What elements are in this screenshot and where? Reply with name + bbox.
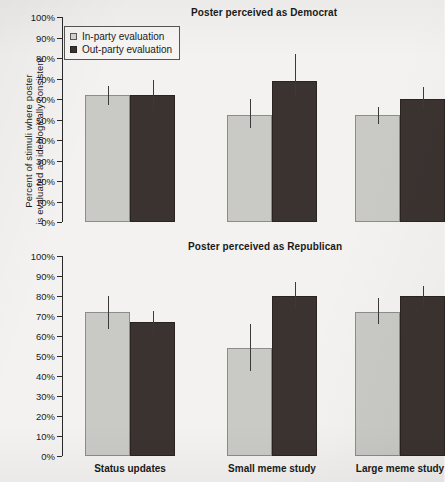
- y-axis-tick: [57, 202, 62, 203]
- y-axis-tick: [57, 276, 62, 277]
- y-axis-tick: [57, 316, 62, 317]
- y-axis-tick: [57, 336, 62, 337]
- error-bar: [108, 86, 109, 105]
- legend-item-out-party: Out-party evaluation: [70, 43, 172, 56]
- y-axis-tick-label: 10%: [36, 431, 55, 442]
- y-axis-tick-label: 90%: [36, 32, 55, 43]
- bar-in-party: [355, 115, 400, 222]
- y-axis-tick-label: 80%: [36, 291, 55, 302]
- y-axis-spine: [62, 17, 63, 222]
- y-axis-tick: [57, 376, 62, 377]
- error-bar: [108, 296, 109, 329]
- y-axis-spine: [62, 256, 63, 456]
- error-bar: [250, 324, 251, 371]
- y-axis-tick-label: 0%: [41, 217, 55, 228]
- bar-out-party: [130, 95, 175, 222]
- y-axis-tick-label: 40%: [36, 135, 55, 146]
- chart-panel-democrat: Poster perceived as Democrat 0%10%20%30%…: [0, 0, 444, 240]
- y-axis-tick: [57, 222, 62, 223]
- y-axis-tick-label: 20%: [36, 411, 55, 422]
- x-axis-category-label: Small meme study: [228, 463, 316, 474]
- bar-out-party: [272, 81, 317, 222]
- bar-in-party: [227, 115, 272, 222]
- y-axis-tick-label: 80%: [36, 53, 55, 64]
- y-axis-tick-label: 20%: [36, 176, 55, 187]
- y-axis-tick-label: 30%: [36, 155, 55, 166]
- y-axis-tick-label: 60%: [36, 331, 55, 342]
- y-axis-tick: [57, 256, 62, 257]
- y-axis-tick: [57, 140, 62, 141]
- bar-in-party: [355, 312, 400, 456]
- chart-legend: In-party evaluation Out-party evaluation: [64, 26, 180, 60]
- bar-in-party: [85, 95, 130, 222]
- y-axis-tick-label: 50%: [36, 114, 55, 125]
- x-axis-category-label: Large meme study: [356, 463, 444, 474]
- error-bar: [378, 298, 379, 324]
- legend-item-in-party: In-party evaluation: [70, 30, 172, 43]
- y-axis-tick: [57, 99, 62, 100]
- bar-out-party: [272, 296, 317, 456]
- chart-panel-republican: Poster perceived as Republican 0%10%20%3…: [0, 240, 444, 482]
- error-bar: [153, 311, 154, 334]
- y-axis-tick-label: 100%: [31, 12, 55, 23]
- y-axis-tick-label: 70%: [36, 73, 55, 84]
- y-axis-tick: [57, 436, 62, 437]
- error-bar: [295, 282, 296, 308]
- y-axis-tick: [57, 396, 62, 397]
- legend-label-out-party: Out-party evaluation: [82, 44, 172, 55]
- plot-area-republican: 0%10%20%30%40%50%60%70%80%90%100%Status …: [62, 256, 440, 456]
- y-axis-tick-label: 0%: [41, 451, 55, 462]
- x-axis-category-label: Status updates: [94, 463, 166, 474]
- y-axis-tick-label: 30%: [36, 391, 55, 402]
- y-axis-tick: [57, 38, 62, 39]
- y-axis-tick: [57, 120, 62, 121]
- error-bar: [378, 107, 379, 123]
- y-axis-tick-label: 90%: [36, 271, 55, 282]
- y-axis-tick: [57, 296, 62, 297]
- y-axis-tick: [57, 161, 62, 162]
- y-axis-tick: [57, 416, 62, 417]
- error-bar: [423, 286, 424, 306]
- y-axis-tick: [57, 356, 62, 357]
- chart-title-republican: Poster perceived as Republican: [188, 241, 342, 252]
- legend-label-in-party: In-party evaluation: [82, 31, 164, 42]
- bar-out-party: [400, 296, 445, 456]
- legend-swatch-out-party-icon: [70, 46, 77, 53]
- legend-swatch-in-party-icon: [70, 33, 77, 40]
- y-axis-tick-label: 60%: [36, 94, 55, 105]
- error-bar: [423, 87, 424, 110]
- y-axis-tick-label: 40%: [36, 371, 55, 382]
- y-axis-tick-label: 10%: [36, 196, 55, 207]
- bar-out-party: [400, 99, 445, 222]
- y-axis-tick: [57, 58, 62, 59]
- error-bar: [153, 80, 154, 111]
- error-bar: [295, 54, 296, 97]
- y-axis-tick-label: 100%: [31, 251, 55, 262]
- y-axis-tick: [57, 17, 62, 18]
- y-axis-tick-label: 70%: [36, 311, 55, 322]
- y-axis-tick: [57, 79, 62, 80]
- bar-out-party: [130, 322, 175, 456]
- y-axis-tick: [57, 181, 62, 182]
- y-axis-tick-label: 50%: [36, 351, 55, 362]
- bar-in-party: [85, 312, 130, 456]
- y-axis-tick: [57, 456, 62, 457]
- error-bar: [250, 99, 251, 128]
